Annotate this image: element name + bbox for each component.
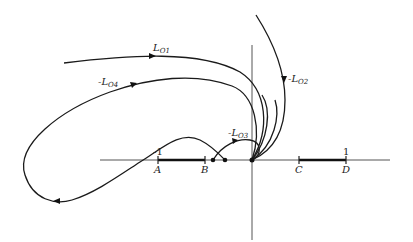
curve-l01 — [64, 56, 264, 160]
arrow-l04-bottom — [53, 198, 60, 204]
origin-dot — [250, 158, 255, 163]
label-l02: -LO2 — [288, 73, 309, 86]
arrow-l04 — [130, 82, 137, 88]
arrow-l01 — [149, 53, 156, 59]
point-label-d: D — [341, 164, 350, 175]
label-l03: -LO3 — [228, 127, 249, 140]
label-l04: -LO4 — [98, 76, 118, 89]
point-label-b: B — [200, 164, 208, 175]
arrow-l02 — [281, 76, 287, 83]
curve-l04 — [24, 78, 257, 202]
pole-dot-1 — [211, 158, 216, 163]
label-l01: LO1 — [152, 42, 170, 55]
point-label-a: A — [153, 164, 161, 175]
value-label-d: 1 — [343, 146, 349, 157]
value-label-a: -1 — [153, 146, 163, 157]
pole-dot-2 — [223, 158, 228, 163]
curve-inner-2 — [252, 100, 277, 160]
root-locus-diagram: LO1 -LO4 -LO2 -LO3 -1 A B C 1 D — [0, 0, 413, 242]
point-label-c: C — [295, 164, 303, 175]
